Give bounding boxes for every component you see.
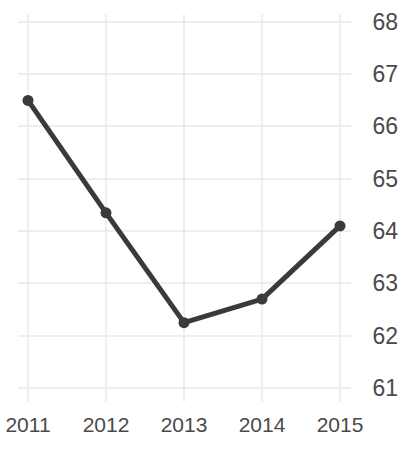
data-point-marker [335, 220, 346, 231]
x-axis-tick-label: 2015 [300, 414, 380, 435]
x-axis-tick-label: 2012 [66, 414, 146, 435]
y-axis-tick-label: 68 [354, 11, 398, 34]
y-axis-tick-label: 64 [354, 220, 398, 243]
y-axis-tick-label: 65 [354, 168, 398, 191]
data-point-marker [101, 207, 112, 218]
x-axis-tick-label: 2014 [222, 414, 302, 435]
y-axis-tick-label: 67 [354, 63, 398, 86]
y-axis-tick-label: 62 [354, 325, 398, 348]
vertical-gridlines [28, 14, 340, 402]
chart-canvas [0, 0, 404, 452]
y-axis-tick-label: 66 [354, 115, 398, 138]
data-point-marker [179, 317, 190, 328]
plot-area [0, 0, 404, 452]
data-point-marker [23, 95, 34, 106]
x-axis-tick-label: 2013 [144, 414, 224, 435]
data-point-marker [257, 294, 268, 305]
y-axis-tick-label: 63 [354, 272, 398, 295]
line-chart: 6867666564636261 20112012201320142015 [0, 0, 404, 452]
y-axis-tick-label: 61 [354, 377, 398, 400]
x-axis-tick-label: 2011 [0, 414, 68, 435]
